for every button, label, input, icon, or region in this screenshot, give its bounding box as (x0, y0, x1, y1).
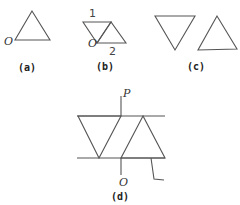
caption-b: (b) (96, 61, 114, 72)
figure-c: (c) (155, 16, 237, 72)
figure-a: O (a) (4, 11, 50, 73)
label-p: P (122, 87, 131, 100)
figure-b: 1 2 O (b) (83, 7, 126, 72)
origin-label: O (4, 35, 13, 48)
label-o: O (119, 176, 128, 189)
diagram-canvas: O (a) 1 2 O (b) (c) P O (d) (0, 0, 240, 205)
upright-triangle (121, 116, 165, 158)
origin-label: O (88, 37, 97, 50)
label-2: 2 (109, 45, 116, 58)
caption-d: (d) (111, 191, 129, 202)
caption-a: (a) (18, 62, 36, 73)
label-1: 1 (89, 7, 96, 20)
inverted-triangle (78, 116, 121, 158)
upright-triangle (198, 16, 237, 50)
caption-c: (c) (187, 61, 205, 72)
side-lead (151, 158, 164, 180)
upright-triangle-2 (97, 22, 126, 43)
figure-d: P O (d) (77, 87, 165, 202)
inverted-triangle (155, 16, 195, 50)
upright-triangle (15, 11, 50, 40)
